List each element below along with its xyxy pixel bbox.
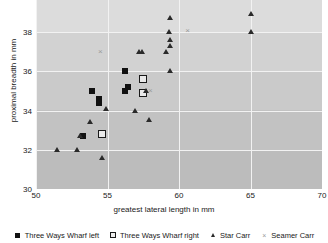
data-point: [166, 29, 172, 34]
y-axis-title: proximal breadth in mm: [9, 16, 18, 146]
data-point: [122, 68, 128, 74]
data-point: [125, 84, 131, 90]
x-axis-title: greatest lateral length in mm: [0, 205, 328, 214]
x-cross-icon: ×: [260, 231, 268, 239]
data-point: [74, 147, 80, 152]
data-point: [139, 49, 145, 54]
data-point: [132, 108, 138, 113]
legend-item[interactable]: Three Ways Wharf right: [109, 231, 199, 240]
data-point: [97, 48, 104, 55]
legend-label: Three Ways Wharf left: [25, 231, 99, 240]
data-point: [103, 106, 109, 111]
data-point: [89, 88, 95, 94]
data-point: [248, 11, 254, 16]
x-tick-label: 65: [231, 191, 271, 200]
legend-item[interactable]: Three Ways Wharf left: [14, 231, 99, 240]
data-point: [167, 43, 173, 48]
x-tick-label: 60: [159, 191, 199, 200]
legend-label: Seamer Carr: [271, 231, 314, 240]
legend-item[interactable]: ×Seamer Carr: [260, 231, 314, 240]
x-tick-label: 50: [16, 191, 56, 200]
legend-label: Three Ways Wharf right: [120, 231, 199, 240]
gridline-vertical: [36, 0, 37, 189]
legend-item[interactable]: Star Carr: [209, 231, 250, 240]
data-point: [96, 100, 102, 106]
chart-legend: Three Ways Wharf leftThree Ways Wharf ri…: [0, 228, 328, 242]
data-point: [87, 119, 93, 124]
data-point: [77, 133, 83, 138]
filled-square-icon: [14, 231, 22, 239]
plot-area: [36, 0, 322, 189]
gridline-vertical: [179, 0, 180, 189]
y-tick-label: 32: [0, 146, 32, 155]
open-square-icon: [109, 231, 117, 239]
data-point: [146, 117, 152, 122]
x-tick-label: 70: [302, 191, 328, 200]
data-point: [167, 68, 173, 73]
data-point: [54, 147, 60, 152]
scatter-chart: 3032343638 5055606570 proximal breadth i…: [0, 0, 328, 243]
data-point: [98, 130, 106, 138]
data-point: [139, 75, 147, 83]
data-point: [248, 29, 254, 34]
data-point: [167, 15, 173, 20]
x-tick-label: 55: [88, 191, 128, 200]
data-point: [167, 37, 173, 42]
legend-label: Star Carr: [220, 231, 250, 240]
data-point: [147, 87, 154, 94]
data-point: [184, 27, 191, 34]
data-point: [99, 155, 105, 160]
data-point: [163, 49, 169, 54]
gridline-vertical: [108, 0, 109, 189]
triangle-icon: [209, 231, 217, 239]
